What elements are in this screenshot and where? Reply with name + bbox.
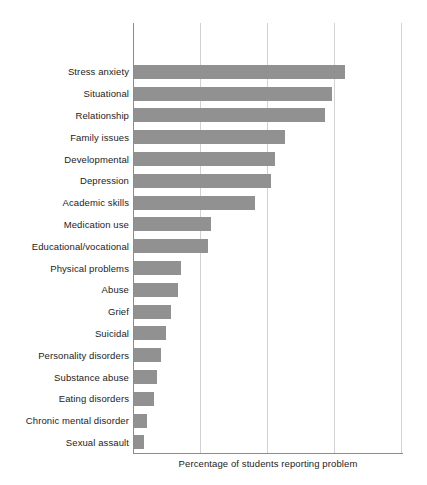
category-labels: Stress anxiety Situational Relationship … xyxy=(0,23,129,453)
bar-row xyxy=(134,388,402,410)
category-label: Physical problems xyxy=(0,258,129,280)
bar-row xyxy=(134,323,402,345)
bar-row xyxy=(134,105,402,127)
bar xyxy=(134,261,181,275)
bar-row xyxy=(134,301,402,323)
category-label: Medication use xyxy=(0,214,129,236)
category-label: Family issues xyxy=(0,127,129,149)
category-label: Chronic mental disorder xyxy=(0,410,129,432)
bar-row xyxy=(134,170,402,192)
bar-row xyxy=(134,367,402,389)
bar xyxy=(134,326,166,340)
bar xyxy=(134,196,255,210)
bar xyxy=(134,435,144,449)
bar-row xyxy=(134,258,402,280)
bar xyxy=(134,217,211,231)
category-label: Substance abuse xyxy=(0,367,129,389)
bar xyxy=(134,414,147,428)
category-label: Stress anxiety xyxy=(0,61,129,83)
category-label: Eating disorders xyxy=(0,388,129,410)
category-label: Suicidal xyxy=(0,323,129,345)
bar-row xyxy=(134,279,402,301)
bar-row xyxy=(134,214,402,236)
bar-row xyxy=(134,192,402,214)
bar xyxy=(134,65,345,79)
bar-row xyxy=(134,432,402,454)
x-axis-label: Percentage of students reporting problem xyxy=(133,458,403,469)
bars-layer xyxy=(134,23,402,453)
bar xyxy=(134,348,161,362)
bar xyxy=(134,239,208,253)
category-label: Sexual assault xyxy=(0,432,129,454)
bar xyxy=(134,87,332,101)
bar-row xyxy=(134,83,402,105)
category-label: Relationship xyxy=(0,105,129,127)
category-label: Depression xyxy=(0,170,129,192)
bar-row xyxy=(134,410,402,432)
bar xyxy=(134,152,275,166)
bar xyxy=(134,283,178,297)
category-label: Grief xyxy=(0,301,129,323)
bar xyxy=(134,174,271,188)
category-label: Abuse xyxy=(0,279,129,301)
bar xyxy=(134,305,171,319)
bar xyxy=(134,370,157,384)
category-label: Academic skills xyxy=(0,192,129,214)
bar-row xyxy=(134,127,402,149)
bar xyxy=(134,392,154,406)
category-label: Developmental xyxy=(0,149,129,171)
bar xyxy=(134,108,325,122)
category-label: Personality disorders xyxy=(0,345,129,367)
bar-row xyxy=(134,149,402,171)
bar-row xyxy=(134,236,402,258)
bar xyxy=(134,130,285,144)
bar-row xyxy=(134,61,402,83)
category-label: Educational/vocational xyxy=(0,236,129,258)
category-label: Situational xyxy=(0,83,129,105)
bar-chart: Stress anxiety Situational Relationship … xyxy=(0,0,427,485)
bar-row xyxy=(134,345,402,367)
